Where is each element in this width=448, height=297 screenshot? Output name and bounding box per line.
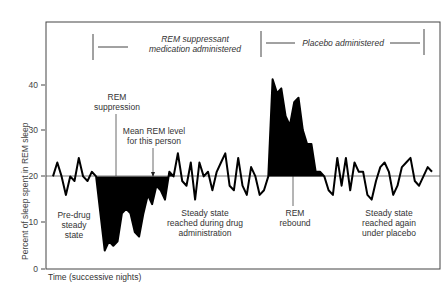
- mean-level-line2: for this person: [118, 136, 190, 146]
- x-axis-label: Time (successive nights): [48, 272, 141, 282]
- steady-placebo-line2: reached again: [352, 218, 426, 228]
- predrug-line2: steady: [52, 220, 96, 230]
- period-placebo-label: Placebo administered: [296, 38, 390, 48]
- steady-drug-label: Steady state reached during drug adminis…: [162, 208, 248, 238]
- y-axis-label: Percent of sleep spent in REM sleep: [20, 123, 30, 261]
- rem-rebound-label: REM rebound: [275, 208, 315, 228]
- rem-suppression-label: REM suppression: [90, 92, 144, 112]
- predrug-line3: state: [52, 230, 96, 240]
- y-tick-40: 40: [8, 80, 38, 90]
- rem-suppression-line1: REM: [90, 92, 144, 102]
- predrug-label: Pre-drug steady state: [52, 210, 96, 240]
- y-ticks: [41, 85, 45, 269]
- steady-drug-line2: reached during drug: [162, 218, 248, 228]
- period-medication-label: REM suppressant medication administered: [128, 34, 262, 54]
- predrug-line1: Pre-drug: [52, 210, 96, 220]
- period-medication-line1: REM suppressant: [128, 34, 262, 44]
- steady-placebo-line1: Steady state: [352, 208, 426, 218]
- steady-placebo-line3: under placebo: [352, 228, 426, 238]
- rebound-line2: rebound: [275, 218, 315, 228]
- steady-drug-line1: Steady state: [162, 208, 248, 218]
- period-medication-line2: medication administered: [128, 44, 262, 54]
- rebound-line1: REM: [275, 208, 315, 218]
- mean-level-line1: Mean REM level: [118, 126, 190, 136]
- y-tick-0: 0: [8, 264, 38, 274]
- mean-level-label: Mean REM level for this person: [118, 126, 190, 146]
- steady-placebo-label: Steady state reached again under placebo: [352, 208, 426, 238]
- steady-drug-line3: administration: [162, 228, 248, 238]
- rem-suppression-line2: suppression: [90, 102, 144, 112]
